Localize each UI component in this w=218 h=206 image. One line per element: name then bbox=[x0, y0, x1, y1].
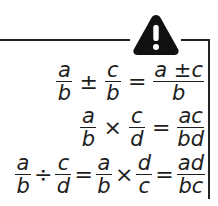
fraction: cd bbox=[55, 153, 71, 196]
plus-minus-operator: ± bbox=[79, 72, 97, 92]
fraction: cb bbox=[105, 60, 121, 103]
frame-right-rule bbox=[208, 39, 210, 199]
equals-operator: = bbox=[74, 165, 92, 185]
warning-icon bbox=[132, 13, 180, 57]
fraction: a ±cb bbox=[153, 60, 204, 103]
equals-operator: = bbox=[155, 165, 173, 185]
equals-operator: = bbox=[128, 72, 146, 92]
frame-top-left-rule bbox=[0, 39, 130, 41]
fraction: cd bbox=[129, 106, 145, 149]
fraction: ab bbox=[96, 153, 112, 196]
fraction: acbd bbox=[177, 106, 204, 149]
times-operator: × bbox=[103, 118, 121, 138]
fraction: dc bbox=[136, 153, 152, 196]
fraction: ab bbox=[56, 60, 72, 103]
frame-top-right-rule bbox=[181, 39, 210, 41]
fraction: ab bbox=[15, 153, 31, 196]
formula-add-subtract: ab ± cb = a ±cb bbox=[54, 60, 206, 103]
fraction: adbc bbox=[177, 153, 205, 196]
fraction: ab bbox=[80, 106, 96, 149]
divide-operator: ÷ bbox=[34, 165, 52, 185]
times-operator: × bbox=[115, 165, 133, 185]
equals-operator: = bbox=[152, 118, 170, 138]
formula-multiply: ab × cd = acbd bbox=[78, 106, 206, 149]
formula-divide: ab ÷ cd = ab × dc = adbc bbox=[14, 153, 206, 196]
